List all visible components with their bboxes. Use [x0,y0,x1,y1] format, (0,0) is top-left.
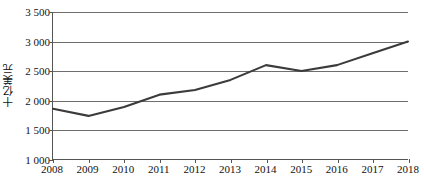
x-axis-tick-label: 2015 [281,163,321,176]
y-axis-tick-label: 3 500 [14,7,50,18]
series-line-path [53,42,408,116]
data-series-svg [53,12,408,160]
y-axis-tick-label: 3 000 [14,36,50,47]
x-axis-tick-label: 2014 [246,163,286,176]
x-axis-tick-label: 2013 [210,163,250,176]
y-axis-tick-label: 1 500 [14,125,50,136]
y-axis-tick-label: 2 500 [14,66,50,77]
x-axis-tick-label-group: 2008200920102011201220132014201520162017… [52,163,408,183]
plot-area [52,12,408,160]
x-axis-tick-label: 2011 [139,163,179,176]
y-axis-tick-label-group: 1 0001 5002 0002 5003 0003 500 [14,0,50,170]
y-axis-title-label: 十亿美元 [3,63,14,107]
x-axis-tick-label: 2012 [174,163,214,176]
x-axis-tick-label: 2018 [388,163,424,176]
x-axis-tick-label: 2017 [352,163,392,176]
x-axis-tick-label: 2009 [68,163,108,176]
x-axis-tick-label: 2010 [103,163,143,176]
x-axis-tick-label: 2016 [317,163,357,176]
x-axis-tick-label: 2008 [32,163,72,176]
y-axis-tick-label: 2 000 [14,95,50,106]
